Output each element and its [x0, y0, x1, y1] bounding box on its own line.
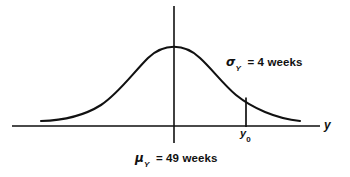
sigma-unit: weeks: [267, 56, 302, 68]
sigma-annotation: σY = 4 weeks: [226, 56, 302, 71]
horizontal-axis-label: y: [324, 119, 331, 131]
y0-subscript: 0: [246, 135, 250, 144]
mu-value: 49: [166, 152, 179, 164]
mu-equals: =: [156, 152, 163, 164]
sigma-subscript: Y: [235, 64, 240, 73]
mu-subscript: Y: [144, 160, 149, 169]
mu-annotation: μY = 49 weeks: [135, 152, 217, 167]
distribution-figure: σY = 4 weeks μY = 49 weeks y0 y: [0, 0, 350, 177]
figure-canvas: [0, 0, 350, 177]
y0-label: y0: [240, 128, 251, 142]
mu-unit: weeks: [182, 152, 217, 164]
mu-symbol: μ: [135, 151, 144, 165]
